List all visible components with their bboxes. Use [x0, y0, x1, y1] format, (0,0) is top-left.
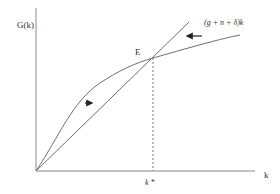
x-axis-label: k — [264, 170, 269, 180]
growth-diagram: G(k) k E k * (g + n + δ)k — [0, 0, 280, 194]
y-axis-label: G(k) — [17, 20, 34, 30]
equilibrium-label: E — [135, 47, 141, 57]
steady-state-label: k * — [145, 178, 155, 187]
line-label: (g + n + δ)k — [204, 18, 244, 27]
break-even-line — [36, 22, 189, 171]
